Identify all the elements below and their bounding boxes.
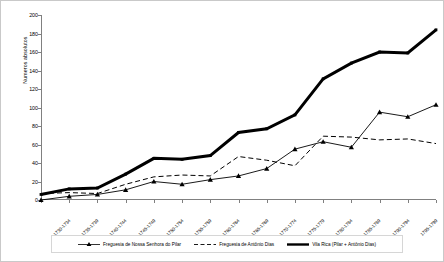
x-tick-mark (239, 200, 240, 203)
data-point-marker (377, 110, 382, 115)
x-tick-mark (408, 200, 409, 203)
legend-swatch-icon (287, 241, 309, 248)
legend-swatch-icon (194, 241, 216, 248)
x-tick-mark (295, 200, 296, 203)
data-point-marker (435, 28, 438, 31)
legend-label: Freguesia de Nossa Senhora do Pilar (103, 242, 181, 247)
y-tick-label: 100 (29, 105, 38, 111)
x-tick-mark (182, 200, 183, 203)
y-tick-label: 160 (29, 49, 38, 55)
data-point-marker (40, 193, 43, 196)
data-point-marker (265, 127, 268, 130)
series-plot (41, 15, 436, 200)
x-tick-mark (126, 200, 127, 203)
legend-label: Vila Rica (Pilar + Antônio Dias) (312, 242, 376, 247)
x-tick-mark (351, 200, 352, 203)
x-tick-label: 1795-1799 (419, 218, 438, 237)
x-tick-mark (69, 200, 70, 203)
data-point-marker (378, 51, 381, 54)
data-point-marker (433, 102, 438, 107)
data-point-marker (96, 187, 99, 190)
data-point-marker (322, 77, 325, 80)
legend-item[interactable]: Vila Rica (Pilar + Antônio Dias) (287, 241, 376, 248)
y-tick-label: 120 (29, 86, 38, 92)
data-point-marker (68, 188, 71, 191)
x-tick-mark (323, 200, 324, 203)
legend-item[interactable]: Freguesia de Nossa Senhora do Pilar (78, 241, 181, 248)
data-point-marker (264, 166, 269, 171)
legend-swatch-icon (78, 241, 100, 248)
data-point-marker (209, 154, 212, 157)
data-point-marker (294, 114, 297, 117)
x-tick-mark (97, 200, 98, 203)
legend-label: Freguesia de Antônio Dias (219, 242, 274, 247)
y-axis-title: Numeros absolutos (22, 0, 28, 120)
x-tick-mark (154, 200, 155, 203)
y-tick-label: 140 (29, 68, 38, 74)
legend-item[interactable]: Freguesia de Antônio Dias (194, 241, 274, 248)
chart-container: Numeros absolutos 0204060801001201401601… (0, 0, 444, 262)
x-tick-mark (210, 200, 211, 203)
data-point-marker (181, 158, 184, 161)
series-line-2 (41, 30, 436, 195)
data-point-marker (237, 131, 240, 134)
x-tick-mark (267, 200, 268, 203)
x-tick-mark (380, 200, 381, 203)
data-point-marker (321, 139, 326, 144)
y-tick-label: 180 (29, 31, 38, 37)
data-point-marker (124, 173, 127, 176)
data-point-marker (152, 157, 155, 160)
x-tick-mark (436, 200, 437, 203)
data-point-marker (350, 62, 353, 65)
y-tick-label: 200 (29, 12, 38, 18)
chart-legend: Freguesia de Nossa Senhora do PilarFregu… (51, 235, 403, 253)
data-point-marker (406, 52, 409, 55)
